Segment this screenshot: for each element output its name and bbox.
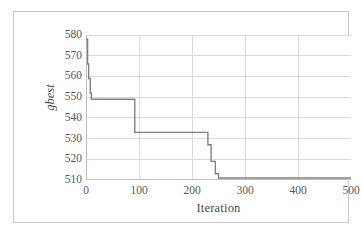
x-tick-label: 0 [64,183,108,197]
y-tick-label: 530 [42,133,82,144]
plot-area [86,35,351,180]
y-tick-label: 580 [42,29,82,40]
series-line-gbest [86,39,351,178]
x-tick-label: 500 [329,183,362,197]
chart-frame: 510520530540550560570580 gbest 010020030… [13,11,349,223]
x-axis-tick-labels: 0100200300400500 [86,183,351,199]
x-tick-label: 400 [276,183,320,197]
x-tick-label: 300 [223,183,267,197]
chart-figure: 510520530540550560570580 gbest 010020030… [0,0,362,235]
data-series-gbest [86,35,351,180]
y-axis-title: gbest [43,76,58,120]
y-tick-label: 570 [42,50,82,61]
x-tick-label: 200 [170,183,214,197]
x-tick-label: 100 [117,183,161,197]
y-tick-label: 520 [42,153,82,164]
x-axis-title: Iteration [86,201,351,216]
